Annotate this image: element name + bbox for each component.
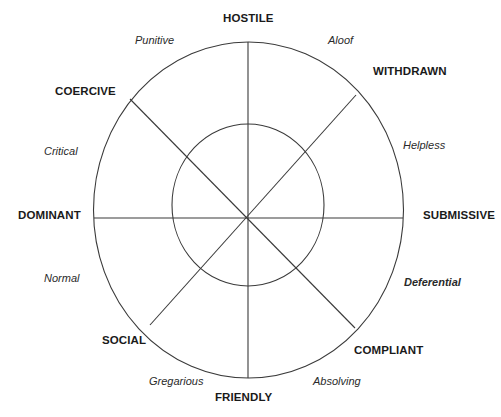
label-helpless: Helpless xyxy=(403,140,445,151)
label-friendly: FRIENDLY xyxy=(215,392,272,404)
label-social: SOCIAL xyxy=(102,335,146,347)
label-normal: Normal xyxy=(44,273,79,284)
spoke-diagonal-ne-sw xyxy=(150,95,356,325)
label-dominant: DOMINANT xyxy=(18,210,81,222)
label-deferential: Deferential xyxy=(404,277,461,288)
label-compliant: COMPLIANT xyxy=(354,345,423,357)
label-hostile: HOSTILE xyxy=(223,13,274,25)
label-coercive: COERCIVE xyxy=(55,86,116,98)
label-absolving: Absolving xyxy=(313,376,361,387)
label-critical: Critical xyxy=(44,146,78,157)
label-aloof: Aloof xyxy=(328,35,353,46)
label-withdrawn: WITHDRAWN xyxy=(373,66,447,78)
label-punitive: Punitive xyxy=(135,35,174,46)
label-submissive: SUBMISSIVE xyxy=(423,210,495,222)
label-gregarious: Gregarious xyxy=(149,376,203,387)
